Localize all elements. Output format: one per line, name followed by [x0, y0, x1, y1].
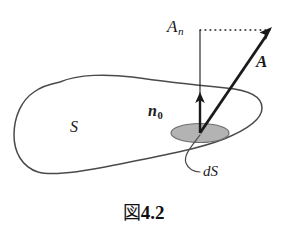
label-unit-normal: n0: [148, 103, 163, 122]
caption-number: 4.2: [141, 202, 165, 223]
figure-container: An A n0 S dS 図4.2: [0, 0, 287, 229]
label-surface: S: [70, 119, 78, 135]
vector-a-arrow: [200, 27, 272, 133]
label-vector-a: A: [256, 53, 267, 70]
caption-kanji: 図: [123, 202, 141, 223]
label-normal-component: An: [167, 18, 184, 37]
figure-caption: 図4.2: [0, 198, 287, 224]
surface-outline-path: [14, 75, 262, 173]
vector-surface-diagram: [0, 0, 287, 229]
label-area-element: dS: [203, 164, 218, 179]
